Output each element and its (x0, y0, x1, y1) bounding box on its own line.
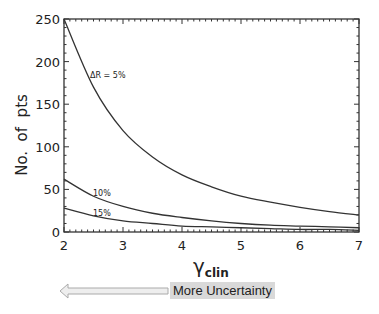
y-tick-label: 0 (52, 225, 60, 240)
x-tick-label: 3 (119, 238, 127, 253)
tick-labels: 234567050100150200250 (35, 12, 363, 253)
y-axis-title: No. of pts (13, 75, 31, 195)
uncertainty-label: More Uncertainty (170, 282, 275, 299)
y-tick-label: 150 (35, 97, 60, 112)
y-tick-label: 250 (35, 12, 60, 27)
label-10pct: 10% (93, 189, 111, 198)
x-tick-label: 5 (237, 238, 245, 253)
plot-frame (64, 19, 359, 232)
x-tick-label: 6 (296, 238, 304, 253)
label-15pct: 15% (93, 209, 111, 218)
data-curves (64, 19, 359, 230)
x-axis-title-main: γ (193, 254, 205, 278)
y-tick-label: 100 (35, 140, 60, 155)
y-tick-label: 50 (43, 182, 60, 197)
x-axis-title-sub: clin (205, 266, 229, 280)
x-axis-title: γclin (193, 254, 229, 280)
x-tick-label: 7 (355, 238, 363, 253)
line-chart: 234567050100150200250 ΔR = 5% 10% 15% (0, 0, 379, 314)
y-tick-label: 200 (35, 55, 60, 70)
axis-ticks (64, 19, 359, 232)
left-arrow-icon (58, 282, 170, 300)
label-5pct: ΔR = 5% (90, 71, 126, 80)
x-tick-label: 2 (60, 238, 68, 253)
x-tick-label: 4 (178, 238, 186, 253)
curve-0 (64, 19, 359, 215)
